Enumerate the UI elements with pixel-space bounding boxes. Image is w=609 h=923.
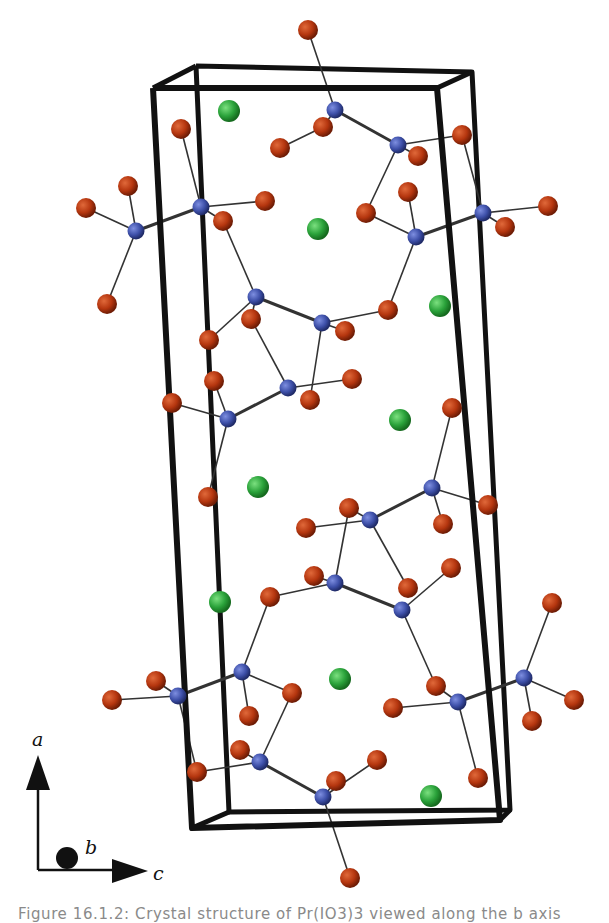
unit-cell-connectors [153,66,510,828]
axis-c-label: c [153,862,164,884]
figure-caption: Figure 16.1.2: Crystal structure of Pr(I… [18,905,609,923]
axis-triad [26,755,148,883]
axis-a-label: a [32,728,43,750]
axis-b-dot-icon [56,847,78,869]
metal-atoms [209,100,451,807]
unit-cell-front [153,88,500,828]
axis-a-arrowhead-icon [26,755,50,790]
axis-b-label: b [85,836,97,858]
axis-c-arrowhead-icon [112,859,148,883]
